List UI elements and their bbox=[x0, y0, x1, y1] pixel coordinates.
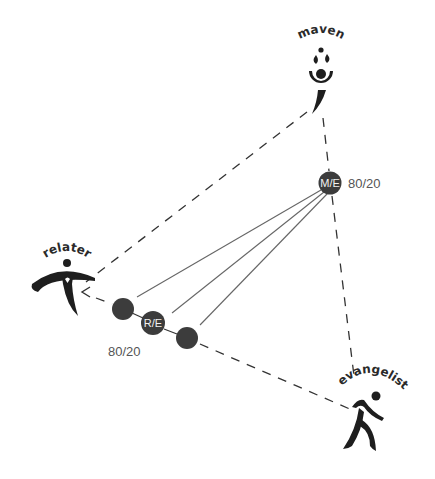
link-left-re bbox=[132, 313, 143, 318]
node-me-ratio: 80/20 bbox=[348, 176, 381, 191]
node-re-right bbox=[176, 327, 198, 349]
node-re-left bbox=[112, 298, 134, 320]
node-me: M/E bbox=[319, 172, 342, 195]
edge-maven-me bbox=[323, 118, 329, 171]
relater-label: relater bbox=[40, 240, 94, 261]
role-triangle-diagram: maven relater evangelist M/E 80/20 R/E 8… bbox=[0, 0, 435, 479]
connector-me-re bbox=[172, 192, 324, 313]
solid-connectors bbox=[137, 190, 327, 325]
evangelist-label: evangelist bbox=[335, 362, 412, 393]
arrowhead-icon bbox=[82, 287, 90, 297]
edge-relater-re bbox=[96, 298, 112, 304]
node-me-label: M/E bbox=[320, 177, 340, 189]
edge-maven-relater bbox=[86, 112, 307, 282]
dashed-edges bbox=[86, 112, 354, 410]
node-re: R/E bbox=[141, 311, 165, 335]
node-re-label: R/E bbox=[144, 317, 162, 329]
relater-figure-icon bbox=[32, 259, 95, 316]
node-re-ratio: 80/20 bbox=[108, 344, 141, 359]
edge-me-evangelist bbox=[332, 196, 354, 376]
maven-figure-icon bbox=[309, 47, 333, 114]
link-re-right bbox=[164, 329, 177, 334]
connector-me-right bbox=[200, 194, 327, 325]
connector-me-left bbox=[137, 190, 321, 297]
maven-label: maven bbox=[295, 22, 347, 42]
evangelist-runner-icon bbox=[343, 392, 384, 452]
edge-re-evangelist bbox=[200, 344, 352, 410]
